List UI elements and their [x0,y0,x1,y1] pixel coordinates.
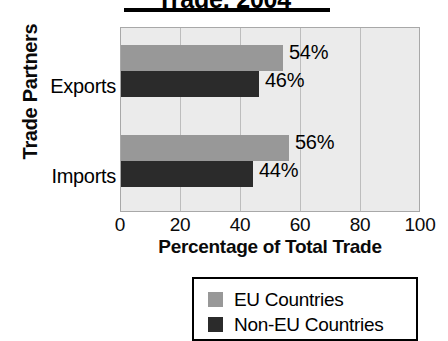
x-tick-40: 40 [230,214,251,236]
gridline-80 [360,28,361,211]
bar-imports-eu-countries [121,135,289,161]
value-label-imports-non-eu: 44% [259,159,298,182]
bar-exports-eu-countries [121,45,283,71]
category-label-imports: Imports [4,165,116,188]
x-tick-80: 80 [350,214,371,236]
x-tick-20: 20 [170,214,191,236]
x-axis-tick-labels: 0 20 40 60 80 100 [120,214,420,238]
legend-item-eu-countries: EU Countries [208,287,416,312]
value-label-exports-eu: 54% [289,41,328,64]
category-label-exports: Exports [4,75,116,98]
bar-imports-non-eu-countries [121,161,253,187]
non-eu-swatch-icon [208,317,223,332]
value-label-exports-non-eu: 46% [265,69,304,92]
x-tick-0: 0 [115,214,125,236]
x-axis-title: Percentage of Total Trade [120,236,420,258]
x-tick-60: 60 [290,214,311,236]
chart-legend: EU Countries Non-EU Countries [192,277,418,341]
y-axis-category-labels: Exports Imports [0,27,116,212]
legend-item-non-eu-countries: Non-EU Countries [208,312,416,337]
legend-label-non-eu-countries: Non-EU Countries [234,314,383,336]
value-label-imports-eu: 56% [295,131,334,154]
plot-area: 54% 46% 56% 44% [120,27,420,212]
legend-label-eu-countries: EU Countries [234,289,343,311]
eu-swatch-icon [208,292,223,307]
bar-exports-non-eu-countries [121,71,259,97]
x-tick-100: 100 [405,214,436,236]
title-underline-rule [124,8,330,12]
